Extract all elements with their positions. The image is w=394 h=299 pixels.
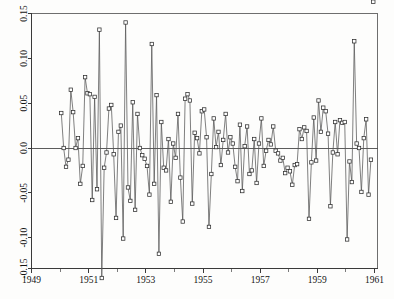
data-point-marker bbox=[179, 176, 182, 179]
data-point-marker bbox=[307, 217, 310, 220]
data-point-marker bbox=[207, 225, 210, 228]
data-point-marker bbox=[169, 200, 172, 203]
data-point-marker bbox=[74, 146, 77, 149]
data-point-marker bbox=[243, 145, 246, 148]
data-point-marker bbox=[260, 117, 263, 120]
y-tick-label: -0.10 bbox=[19, 228, 29, 248]
data-point-marker bbox=[355, 142, 358, 145]
data-point-marker bbox=[353, 40, 356, 43]
data-point-marker bbox=[367, 193, 370, 196]
data-point-marker bbox=[152, 182, 155, 185]
data-point-marker bbox=[248, 172, 251, 175]
data-point-marker bbox=[67, 158, 70, 161]
data-series-line bbox=[61, 22, 371, 278]
data-point-marker bbox=[141, 153, 144, 156]
x-tick-label: 1957 bbox=[251, 275, 270, 285]
data-point-marker bbox=[122, 237, 125, 240]
data-point-marker bbox=[300, 137, 303, 140]
data-point-marker bbox=[138, 146, 141, 149]
data-point-marker bbox=[305, 129, 308, 132]
data-point-marker bbox=[317, 99, 320, 102]
data-point-marker bbox=[181, 220, 184, 223]
data-point-marker bbox=[95, 188, 98, 191]
data-point-marker bbox=[88, 93, 91, 96]
data-point-marker bbox=[212, 117, 215, 120]
x-axis-ticks bbox=[32, 269, 375, 273]
data-point-marker bbox=[326, 132, 329, 135]
data-point-marker bbox=[229, 136, 232, 139]
data-point-marker bbox=[124, 21, 127, 24]
data-point-marker bbox=[174, 156, 177, 159]
data-point-marker bbox=[81, 164, 84, 167]
data-point-marker bbox=[253, 137, 256, 140]
data-point-marker bbox=[334, 120, 337, 123]
data-point-marker bbox=[314, 159, 317, 162]
y-tick-label: 0.15 bbox=[19, 5, 29, 22]
data-point-marker bbox=[129, 199, 132, 202]
data-point-marker bbox=[107, 107, 110, 110]
time-series-plot: 1949195119531955195719591961 0.150.100.0… bbox=[0, 0, 394, 299]
data-point-marker bbox=[357, 146, 360, 149]
data-point-marker bbox=[155, 93, 158, 96]
data-point-marker bbox=[164, 169, 167, 172]
data-point-marker bbox=[343, 120, 346, 123]
data-point-marker bbox=[267, 138, 270, 141]
data-point-marker bbox=[76, 136, 79, 139]
data-point-marker bbox=[191, 202, 194, 205]
data-point-marker bbox=[348, 160, 351, 163]
data-point-marker bbox=[62, 146, 65, 149]
data-point-marker bbox=[250, 169, 253, 172]
data-point-marker bbox=[136, 112, 139, 115]
data-point-marker bbox=[364, 118, 367, 121]
chart-figure: 1949195119531955195719591961 0.150.100.0… bbox=[0, 0, 394, 299]
x-axis-tick-labels: 1949195119531955195719591961 bbox=[22, 275, 384, 285]
data-point-marker bbox=[133, 208, 136, 211]
data-point-marker bbox=[241, 189, 244, 192]
data-point-marker bbox=[360, 190, 363, 193]
data-point-marker bbox=[157, 252, 160, 255]
x-tick-label: 1951 bbox=[79, 275, 98, 285]
data-point-marker bbox=[269, 143, 272, 146]
y-tick-label: -0.05 bbox=[19, 183, 29, 203]
data-point-marker bbox=[110, 103, 113, 106]
data-point-marker bbox=[331, 151, 334, 154]
data-point-marker bbox=[322, 106, 325, 109]
data-point-marker bbox=[91, 198, 94, 201]
data-point-marker bbox=[324, 110, 327, 113]
y-tick-label: 0.05 bbox=[19, 95, 29, 112]
data-point-marker bbox=[79, 182, 82, 185]
data-point-marker bbox=[195, 136, 198, 139]
data-point-marker bbox=[167, 137, 170, 140]
data-point-marker bbox=[186, 93, 189, 96]
data-point-marker bbox=[64, 165, 67, 168]
data-point-marker bbox=[345, 238, 348, 241]
data-point-marker bbox=[283, 171, 286, 174]
data-point-marker bbox=[224, 112, 227, 115]
x-tick-label: 1953 bbox=[136, 275, 155, 285]
x-tick-label: 1955 bbox=[194, 275, 213, 285]
data-point-marker bbox=[286, 166, 289, 169]
data-point-marker bbox=[119, 124, 122, 127]
data-point-marker bbox=[329, 205, 332, 208]
x-tick-label: 1959 bbox=[308, 275, 327, 285]
data-point-marker bbox=[203, 108, 206, 111]
data-point-marker bbox=[188, 99, 191, 102]
y-tick-label: 0.10 bbox=[19, 50, 29, 67]
data-point-marker bbox=[114, 216, 117, 219]
data-point-marker bbox=[238, 123, 241, 126]
data-point-marker bbox=[210, 172, 213, 175]
data-point-marker bbox=[69, 88, 72, 91]
x-tick-label: 1961 bbox=[365, 275, 384, 285]
data-point-marker bbox=[160, 120, 163, 123]
data-point-marker bbox=[83, 75, 86, 78]
data-point-marker bbox=[255, 181, 258, 184]
data-point-marker bbox=[272, 125, 275, 128]
data-point-marker bbox=[100, 276, 103, 279]
data-point-marker bbox=[205, 136, 208, 139]
data-point-marker bbox=[288, 170, 291, 173]
data-point-marker bbox=[336, 153, 339, 156]
data-point-marker bbox=[226, 151, 229, 154]
data-point-marker bbox=[310, 161, 313, 164]
data-point-marker bbox=[193, 131, 196, 134]
data-point-marker bbox=[93, 95, 96, 98]
